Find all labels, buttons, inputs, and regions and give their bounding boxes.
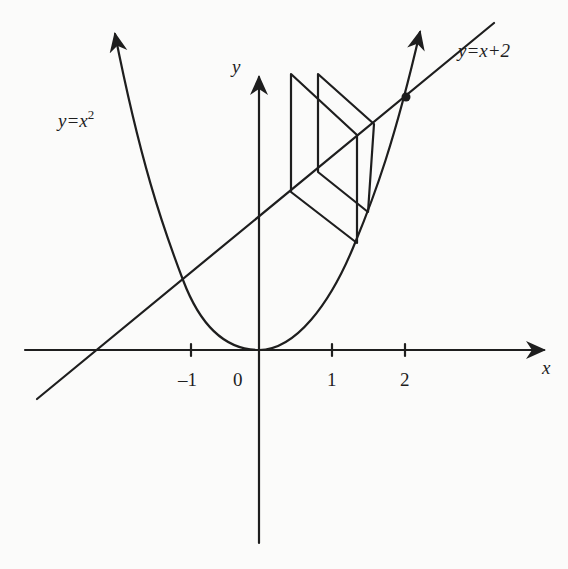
origin-label: 0 (233, 370, 243, 389)
diagram-canvas: y x –1 0 1 2 y=x2 y=x+2 (0, 0, 568, 569)
y-axis-label: y (232, 57, 240, 76)
diagram-svg (0, 0, 568, 569)
tick-label-minus-1: –1 (178, 370, 197, 389)
parabola-label: y=x2 (58, 108, 94, 130)
parabola-right-branch (259, 32, 420, 350)
tick-label-1: 1 (327, 370, 337, 389)
line-label: y=x+2 (458, 41, 510, 60)
parabola-left-branch (115, 34, 259, 350)
parabola-label-exponent: 2 (88, 107, 95, 122)
cobweb-shape-2 (318, 74, 374, 212)
x-axis-label: x (542, 358, 550, 377)
line-y-equals-x-plus-2 (37, 23, 494, 399)
parabola-label-base: y=x (58, 110, 88, 131)
intersection-dot (402, 93, 411, 102)
tick-label-2: 2 (400, 370, 410, 389)
